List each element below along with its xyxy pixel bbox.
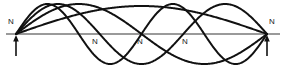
node-label-interior-2: N [137, 38, 143, 46]
node-label-interior-1: N [92, 38, 98, 46]
node-label-right-end: N [269, 18, 275, 26]
node-label-interior-3: N [182, 38, 188, 46]
left-support-arrow-head [13, 35, 19, 42]
standing-wave-figure: N N N N N [0, 0, 284, 71]
standing-wave-canvas [0, 0, 284, 71]
node-label-left-end: N [8, 18, 14, 26]
